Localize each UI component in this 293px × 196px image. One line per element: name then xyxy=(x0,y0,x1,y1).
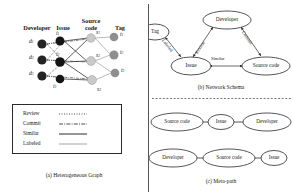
metapath1-label-1: Source code xyxy=(151,118,203,124)
node-label-t1: t1 xyxy=(120,31,123,37)
edge-group-commit xyxy=(47,39,89,79)
node-label-d3: d3 xyxy=(29,70,34,76)
node-label-d1: d1 xyxy=(29,38,34,44)
node-label-i1: i1 xyxy=(56,30,59,36)
node-s2[interactable] xyxy=(87,57,96,66)
node-label-i2: i2 xyxy=(56,51,59,57)
panel-heterogeneous-graph: Developer Issue Source code Tag xyxy=(0,0,148,196)
schema-label-source-code: Source code xyxy=(242,62,290,68)
schema-label-developer: Developer xyxy=(203,16,251,22)
caption-panel-a: (a) Heterogeneous Graph xyxy=(0,172,148,178)
node-s1[interactable] xyxy=(87,34,96,43)
node-label-d2: d2 xyxy=(29,54,34,60)
metapath1-label-2: Issue xyxy=(208,118,234,124)
figure-root: Developer Issue Source code Tag xyxy=(0,0,293,196)
caption-panel-c: (c) Meta-path xyxy=(149,178,293,184)
metapath2-label-3: Issue xyxy=(261,154,287,160)
graph-edges xyxy=(0,0,148,110)
node-label-s2: s2 xyxy=(96,52,100,58)
schema-label-tag: Tag xyxy=(148,28,162,34)
edge-group-labeled xyxy=(95,37,111,80)
node-label-t2: t2 xyxy=(120,49,123,55)
metapath1-label-3: Developer xyxy=(243,118,291,124)
node-i2[interactable] xyxy=(55,57,65,67)
node-d2[interactable] xyxy=(37,55,46,64)
caption-panel-b: (b) Network Schema xyxy=(149,84,293,90)
edge-group-similar xyxy=(64,38,89,80)
node-i1[interactable] xyxy=(56,37,65,46)
metapath2-label-1: Developer xyxy=(149,154,197,160)
node-i3[interactable] xyxy=(56,75,65,84)
edge-label-similar: Similar xyxy=(211,56,225,61)
node-d3[interactable] xyxy=(37,71,46,80)
node-t1[interactable] xyxy=(110,33,119,42)
node-label-s1: s1 xyxy=(96,29,100,35)
node-d1[interactable] xyxy=(37,39,46,48)
node-label-i3: i3 xyxy=(53,83,56,89)
node-label-s3: s3 xyxy=(97,86,101,92)
panel-meta-path: Source code Issue Developer Developer So… xyxy=(149,100,293,196)
legend-swatches xyxy=(13,105,121,153)
node-t2[interactable] xyxy=(110,51,119,60)
node-label-t3: t3 xyxy=(121,67,124,73)
panel-network-schema: Tag Developer Issue Source code Labeled … xyxy=(149,0,293,98)
legend-box: Review Commit Similar Labeled xyxy=(12,104,122,154)
node-t3[interactable] xyxy=(111,69,120,78)
node-s3[interactable] xyxy=(88,76,97,85)
metapath2-label-2: Source code xyxy=(203,154,255,160)
schema-label-issue: Issue xyxy=(171,62,211,68)
